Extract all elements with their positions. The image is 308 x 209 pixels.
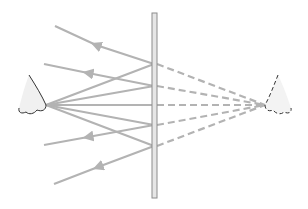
plane-mirror	[152, 13, 157, 198]
virtual-ray-4	[157, 105, 265, 125]
incident-ray-2	[46, 86, 154, 105]
virtual-ray-2	[157, 86, 265, 105]
incident-ray-5	[46, 105, 154, 146]
mirror-reflection-diagram	[0, 0, 308, 209]
incident-ray-1	[46, 64, 154, 105]
virtual-ray-5	[157, 105, 265, 146]
incident-ray-4	[46, 105, 154, 125]
virtual-ray-1	[157, 64, 265, 105]
diagram-canvas	[0, 0, 308, 209]
reflected-ray-5	[54, 146, 154, 184]
reflected-ray-4	[44, 125, 154, 145]
reflected-ray-2	[44, 64, 154, 86]
virtual-eye-nose-icon	[265, 75, 291, 114]
reflected-ray-1	[55, 26, 154, 64]
virtual-rays	[157, 64, 265, 146]
